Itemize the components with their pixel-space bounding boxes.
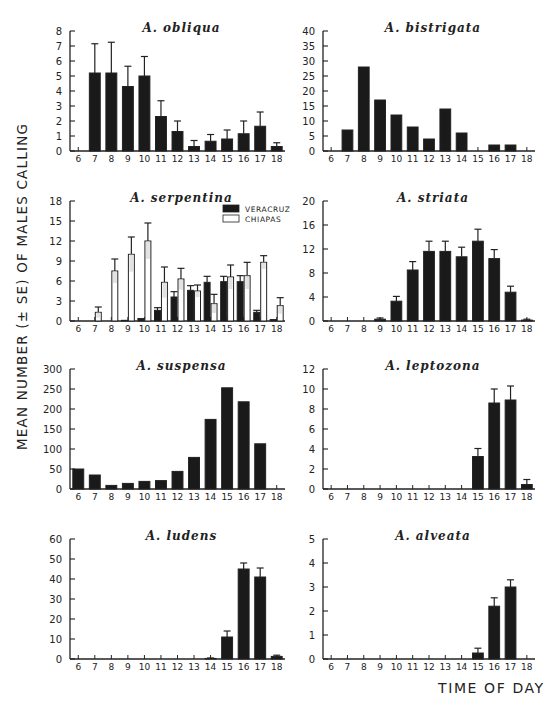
bar bbox=[440, 251, 451, 321]
panel-serpentina: A. serpentina036912151867891011121314151… bbox=[0, 170, 290, 340]
x-tick-label: 6 bbox=[328, 324, 334, 334]
y-tick-label: 30 bbox=[49, 594, 62, 605]
x-tick-label: 15 bbox=[472, 492, 483, 502]
figure: MEAN NUMBER (± SE) OF MALES CALLING TIME… bbox=[0, 0, 555, 710]
bar bbox=[255, 577, 266, 659]
y-tick-label: 250 bbox=[43, 384, 62, 395]
x-tick-label: 9 bbox=[125, 154, 131, 164]
x-tick-label: 17 bbox=[505, 492, 516, 502]
y-tick-label: 0 bbox=[56, 316, 62, 327]
y-tick-label: 30 bbox=[302, 56, 315, 67]
y-tick-label: 12 bbox=[302, 244, 315, 255]
x-tick-label: 15 bbox=[472, 154, 483, 164]
y-tick-label: 6 bbox=[56, 276, 62, 287]
x-tick-label: 13 bbox=[440, 324, 451, 334]
y-tick-label: 35 bbox=[302, 41, 315, 52]
y-tick-label: 0 bbox=[309, 146, 315, 157]
x-tick-label: 12 bbox=[172, 662, 183, 672]
bar bbox=[139, 481, 150, 489]
x-tick-label: 13 bbox=[188, 662, 199, 672]
bar bbox=[222, 388, 233, 489]
x-tick-label: 15 bbox=[221, 492, 232, 502]
y-tick-label: 15 bbox=[49, 216, 62, 227]
x-tick-label: 18 bbox=[521, 154, 533, 164]
x-tick-label: 16 bbox=[489, 492, 501, 502]
bar bbox=[521, 485, 532, 490]
legend-swatch bbox=[223, 215, 239, 222]
bar bbox=[505, 145, 516, 151]
y-tick-label: 15 bbox=[302, 101, 315, 112]
x-tick-label: 12 bbox=[423, 324, 434, 334]
bar bbox=[222, 637, 233, 659]
bar bbox=[189, 457, 200, 489]
x-tick-label: 12 bbox=[423, 662, 434, 672]
bar bbox=[407, 127, 418, 151]
y-tick-label: 1 bbox=[309, 630, 315, 641]
y-tick-label: 150 bbox=[43, 424, 62, 435]
y-tick-label: 300 bbox=[43, 364, 62, 375]
chart-title: A. leptozona bbox=[384, 359, 480, 373]
bar bbox=[261, 262, 267, 321]
y-tick-label: 6 bbox=[309, 424, 315, 435]
bar bbox=[391, 301, 402, 321]
bar bbox=[155, 310, 161, 321]
x-tick-label: 15 bbox=[221, 662, 232, 672]
x-tick-label: 14 bbox=[205, 662, 217, 672]
x-tick-label: 8 bbox=[108, 492, 114, 502]
y-tick-label: 60 bbox=[49, 534, 62, 545]
x-tick-label: 8 bbox=[108, 662, 114, 672]
bar bbox=[172, 132, 183, 152]
chart-title: A. alveata bbox=[394, 529, 471, 543]
x-tick-label: 11 bbox=[155, 324, 166, 334]
x-tick-label: 13 bbox=[440, 662, 451, 672]
x-tick-label: 6 bbox=[75, 492, 81, 502]
bar bbox=[473, 457, 484, 490]
x-tick-label: 14 bbox=[456, 492, 468, 502]
y-tick-label: 8 bbox=[309, 404, 315, 415]
y-tick-label: 0 bbox=[56, 146, 62, 157]
x-tick-label: 6 bbox=[328, 492, 334, 502]
x-tick-label: 14 bbox=[456, 154, 468, 164]
bar bbox=[205, 419, 216, 489]
y-tick-label: 40 bbox=[302, 26, 315, 37]
x-tick-label: 15 bbox=[472, 324, 483, 334]
x-tick-label: 6 bbox=[328, 662, 334, 672]
x-tick-label: 8 bbox=[108, 324, 114, 334]
bar bbox=[456, 257, 467, 321]
bar bbox=[139, 76, 150, 151]
x-tick-label: 10 bbox=[391, 154, 403, 164]
y-tick-label: 100 bbox=[43, 444, 62, 455]
y-tick-label: 4 bbox=[309, 558, 315, 569]
x-tick-label: 17 bbox=[254, 324, 265, 334]
x-tick-label: 7 bbox=[92, 662, 98, 672]
x-tick-label: 13 bbox=[440, 492, 451, 502]
y-tick-label: 0 bbox=[309, 484, 315, 495]
y-tick-label: 4 bbox=[309, 292, 315, 303]
x-tick-label: 10 bbox=[391, 324, 403, 334]
bar bbox=[489, 145, 500, 151]
bar bbox=[255, 444, 266, 489]
x-tick-label: 11 bbox=[407, 154, 418, 164]
x-tick-label: 14 bbox=[205, 324, 217, 334]
x-tick-label: 6 bbox=[75, 662, 81, 672]
x-tick-label: 10 bbox=[391, 662, 403, 672]
y-tick-label: 4 bbox=[56, 86, 62, 97]
bar bbox=[375, 319, 386, 321]
x-tick-label: 9 bbox=[377, 492, 383, 502]
bar bbox=[121, 320, 127, 321]
x-tick-label: 12 bbox=[172, 492, 183, 502]
x-tick-label: 10 bbox=[391, 492, 403, 502]
x-tick-label: 6 bbox=[328, 154, 334, 164]
y-tick-label: 10 bbox=[302, 384, 315, 395]
x-tick-label: 8 bbox=[361, 492, 367, 502]
bar bbox=[156, 481, 167, 489]
y-tick-label: 20 bbox=[302, 86, 315, 97]
bar bbox=[122, 87, 133, 152]
y-tick-label: 20 bbox=[49, 614, 62, 625]
chart-title: A. serpentina bbox=[129, 191, 233, 205]
panel-striata: A. striata048121620678910111213141516171… bbox=[270, 170, 555, 340]
x-tick-label: 15 bbox=[472, 662, 483, 672]
x-tick-label: 18 bbox=[521, 492, 533, 502]
bar bbox=[424, 251, 435, 321]
x-tick-label: 9 bbox=[125, 662, 131, 672]
